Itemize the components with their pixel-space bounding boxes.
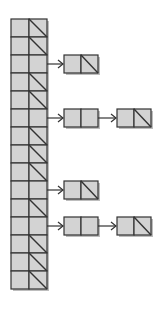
slot-key-cell	[11, 19, 29, 37]
node-value-cell	[64, 181, 81, 199]
list-node	[64, 181, 100, 201]
table-slot	[11, 271, 47, 289]
node-value-cell	[117, 217, 134, 235]
slot-key-cell	[11, 73, 29, 91]
list-node	[117, 109, 153, 129]
hash-table-array	[11, 19, 49, 291]
list-node	[117, 217, 153, 237]
list-node	[64, 109, 100, 129]
node-next-cell	[81, 109, 98, 127]
slot-pointer-cell	[29, 181, 47, 199]
slot-key-cell	[11, 109, 29, 127]
table-slot	[11, 235, 47, 253]
node-value-cell	[117, 109, 134, 127]
slot-key-cell	[11, 181, 29, 199]
slot-key-cell	[11, 145, 29, 163]
node-value-cell	[64, 217, 81, 235]
table-slot	[11, 199, 47, 217]
table-slot	[11, 109, 47, 127]
table-slot	[11, 253, 47, 271]
slot-pointer-cell	[29, 55, 47, 73]
table-slot	[11, 91, 47, 109]
slot-key-cell	[11, 235, 29, 253]
table-slot	[11, 19, 47, 37]
table-slot	[11, 163, 47, 181]
list-node	[64, 217, 100, 237]
table-slot	[11, 73, 47, 91]
slot-key-cell	[11, 253, 29, 271]
node-value-cell	[64, 55, 81, 73]
node-next-cell	[81, 217, 98, 235]
hash-table-diagram	[0, 0, 162, 310]
slot-key-cell	[11, 91, 29, 109]
table-slot	[11, 181, 47, 199]
table-slot	[11, 127, 47, 145]
slot-key-cell	[11, 55, 29, 73]
slot-key-cell	[11, 217, 29, 235]
slot-pointer-cell	[29, 109, 47, 127]
slot-key-cell	[11, 127, 29, 145]
slot-key-cell	[11, 199, 29, 217]
slot-key-cell	[11, 271, 29, 289]
table-slot	[11, 145, 47, 163]
slot-key-cell	[11, 163, 29, 181]
table-slot	[11, 37, 47, 55]
slot-pointer-cell	[29, 217, 47, 235]
linked-list-chains	[47, 55, 153, 237]
slot-key-cell	[11, 37, 29, 55]
table-slot	[11, 55, 47, 73]
node-value-cell	[64, 109, 81, 127]
table-slot	[11, 217, 47, 235]
list-node	[64, 55, 100, 75]
